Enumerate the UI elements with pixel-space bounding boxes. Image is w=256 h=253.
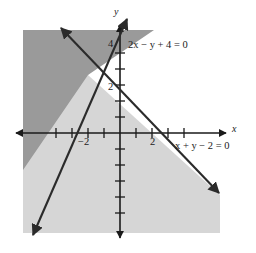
x-axis-name: x [232,124,236,134]
y-axis-name: y [114,7,118,17]
graph-svg [0,0,256,253]
y-tick-label-4: 4 [108,39,113,50]
figure-canvas: y x −2 2 2 4 2x − y + 4 = 0 x + y − 2 = … [0,0,256,253]
y-tick-label-2: 2 [108,82,113,93]
equation-label-line1: 2x − y + 4 = 0 [128,40,188,51]
x-tick-label-neg2: −2 [78,137,89,148]
equation-label-line2: x + y − 2 = 0 [175,141,230,152]
x-tick-label-2: 2 [150,137,155,148]
